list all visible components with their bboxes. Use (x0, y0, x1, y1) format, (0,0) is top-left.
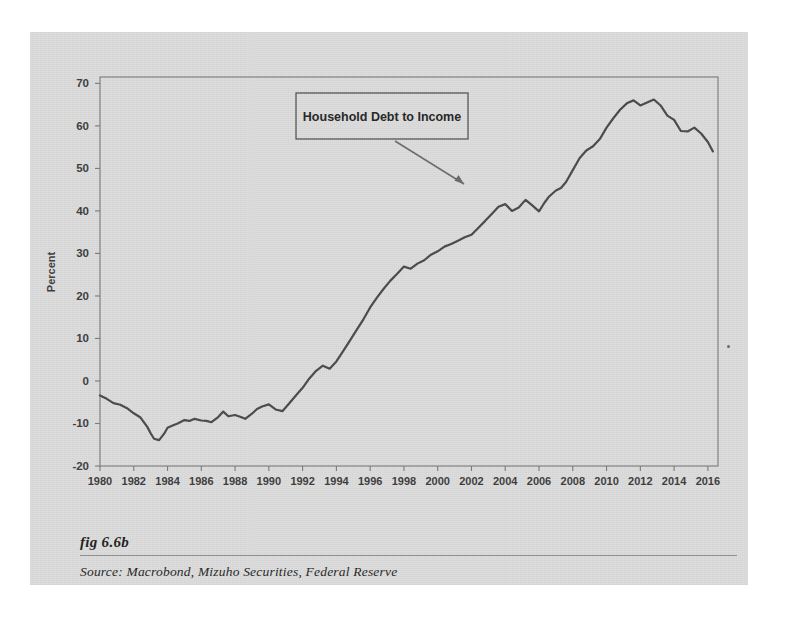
x-tick-label-1980: 1980 (88, 475, 112, 487)
x-tick-label-2008: 2008 (561, 475, 585, 487)
figure-caption-block: fig 6.6b Source: Macrobond, Mizuho Secur… (80, 534, 740, 580)
figure-source-line: Source: Macrobond, Mizuho Securities, Fe… (80, 564, 740, 580)
x-tick-label-1998: 1998 (392, 475, 416, 487)
y-axis: -20-10010203040506070 (72, 77, 100, 472)
annotation-arrow (395, 141, 464, 184)
caption-divider (80, 555, 737, 556)
chart-canvas: -20-10010203040506070 198019821984198619… (30, 32, 748, 585)
x-tick-label-1990: 1990 (257, 475, 281, 487)
y-tick-label-60: 60 (76, 120, 89, 132)
x-tick-label-2014: 2014 (662, 475, 687, 487)
x-tick-label-2004: 2004 (493, 475, 518, 487)
y-tick-label-0: 0 (83, 375, 89, 387)
scanned-figure-card: -20-10010203040506070 198019821984198619… (30, 32, 748, 585)
y-tick-label-10: 10 (76, 332, 89, 344)
y-tick-label-30: 30 (76, 247, 89, 259)
x-tick-label-2010: 2010 (594, 475, 618, 487)
y-axis-title: Percent (45, 251, 57, 292)
y-tick-label-50: 50 (76, 162, 89, 174)
x-tick-label-1982: 1982 (122, 475, 146, 487)
plot-frame (100, 77, 718, 466)
y-tick-label-70: 70 (76, 77, 89, 89)
x-tick-label-2002: 2002 (459, 475, 483, 487)
y-tick-label--10: -10 (72, 417, 89, 429)
annotation-label: Household Debt to Income (303, 110, 461, 124)
figure-number-label: fig 6.6b (80, 534, 740, 551)
y-tick-label-40: 40 (76, 205, 89, 217)
x-tick-label-2006: 2006 (527, 475, 551, 487)
y-tick-label-20: 20 (76, 290, 89, 302)
x-tick-label-1992: 1992 (290, 475, 314, 487)
series-line-household-debt-to-income (100, 100, 713, 441)
scan-artifact-dot (727, 345, 730, 348)
y-tick-label--20: -20 (72, 460, 89, 472)
x-tick-label-2000: 2000 (425, 475, 449, 487)
x-tick-label-1988: 1988 (223, 475, 247, 487)
x-axis: 1980198219841986198819901992199419961998… (88, 466, 720, 487)
x-tick-label-1994: 1994 (324, 475, 349, 487)
x-tick-label-2016: 2016 (696, 475, 720, 487)
x-tick-label-2012: 2012 (628, 475, 652, 487)
x-tick-label-1996: 1996 (358, 475, 382, 487)
x-tick-label-1984: 1984 (155, 475, 180, 487)
page-root: -20-10010203040506070 198019821984198619… (0, 0, 792, 622)
x-tick-label-1986: 1986 (189, 475, 213, 487)
